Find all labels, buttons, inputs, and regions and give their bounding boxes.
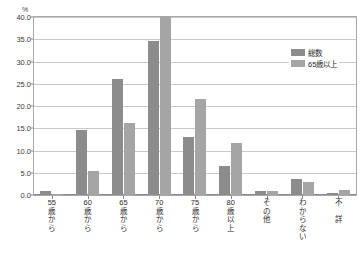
bar[interactable] [148, 41, 159, 195]
y-tick-label: 35.0 [1, 35, 31, 44]
x-tick-label: 不 詳 [327, 199, 349, 225]
x-tick-label: 70 歳 か ら [148, 199, 170, 233]
y-tick-label: 15.0 [1, 124, 31, 133]
x-tick-label: 55 歳 か ら [41, 199, 63, 233]
bar-group [177, 17, 213, 195]
bar-group [34, 17, 70, 195]
x-tick-label: 80 歳 以 上 [220, 199, 242, 233]
y-tick-mark [30, 106, 33, 107]
legend-swatch-icon [291, 49, 305, 56]
bar[interactable] [327, 193, 338, 195]
legend-item-65plus[interactable]: 65歳以上 [291, 59, 337, 68]
y-tick-mark [30, 61, 33, 62]
bar-group [213, 17, 249, 195]
y-tick-mark [30, 150, 33, 151]
bar-group [249, 17, 285, 195]
y-tick-label: 10.0 [1, 146, 31, 155]
x-tick-label: 65 歳 か ら [112, 199, 134, 233]
x-tick-label: わ か ら な い [291, 199, 313, 242]
bar[interactable] [52, 194, 63, 195]
bar-group [70, 17, 106, 195]
legend: 総数 65歳以上 [289, 47, 339, 69]
bar[interactable] [303, 182, 314, 195]
bar[interactable] [219, 166, 230, 195]
bar[interactable] [339, 190, 350, 195]
y-tick-mark [30, 128, 33, 129]
legend-label: 総数 [308, 47, 322, 58]
y-tick-mark [30, 172, 33, 173]
bar[interactable] [267, 191, 278, 195]
y-tick-mark [30, 195, 33, 196]
bar[interactable] [255, 191, 266, 195]
bar-group [141, 17, 177, 195]
bars-layer [34, 17, 356, 195]
bar[interactable] [124, 123, 135, 195]
bar[interactable] [88, 171, 99, 195]
y-tick-label: 20.0 [1, 102, 31, 111]
y-tick-mark [30, 39, 33, 40]
bar[interactable] [40, 191, 51, 195]
bar-chart: % 0.05.010.015.020.025.030.035.040.0 55 … [0, 0, 363, 262]
y-tick-label: 40.0 [1, 13, 31, 22]
y-tick-mark [30, 83, 33, 84]
legend-swatch-icon [291, 60, 305, 67]
bar[interactable] [195, 99, 206, 195]
bar[interactable] [231, 143, 242, 195]
x-tick-label: そ の 他 [256, 199, 278, 225]
bar-group [320, 17, 356, 195]
y-tick-label: 0.0 [1, 191, 31, 200]
y-tick-mark [30, 17, 33, 18]
y-axis: 0.05.010.015.020.025.030.035.040.0 [0, 0, 31, 262]
bar[interactable] [112, 79, 123, 195]
legend-item-total[interactable]: 総数 [291, 48, 337, 57]
bar[interactable] [160, 16, 171, 195]
y-tick-label: 30.0 [1, 57, 31, 66]
bar-group [284, 17, 320, 195]
legend-label: 65歳以上 [308, 58, 337, 69]
bar[interactable] [76, 130, 87, 195]
x-tick-label: 60 歳 か ら [77, 199, 99, 233]
bar-group [106, 17, 142, 195]
x-tick-label: 75 歳 か ら [184, 199, 206, 233]
x-axis: 55 歳 か ら60 歳 か ら65 歳 か ら70 歳 か ら75 歳 か ら… [34, 199, 356, 259]
bar[interactable] [183, 137, 194, 195]
bar[interactable] [291, 179, 302, 195]
y-tick-label: 25.0 [1, 79, 31, 88]
y-tick-label: 5.0 [1, 168, 31, 177]
